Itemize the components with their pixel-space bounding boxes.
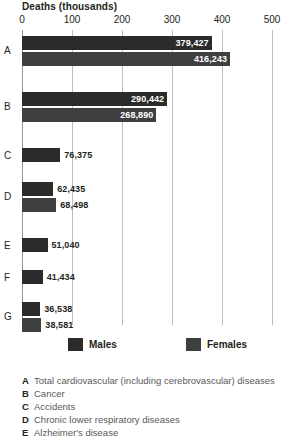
bar-fill [22, 148, 60, 162]
legend-swatch-icon [186, 338, 201, 351]
bar-row: F41,434 [22, 270, 272, 284]
key-letter: E [22, 426, 34, 439]
chart-legend: MalesFemales [0, 333, 298, 357]
key-text: Chronic lower respiratory diseases [34, 413, 180, 426]
chart-container: Deaths (thousands) 0100200300400500 A379… [0, 0, 298, 441]
bar-fill [22, 302, 40, 316]
bar-row: A379,427416,243 [22, 36, 272, 66]
legend-label: Males [89, 339, 117, 350]
legend-item-males[interactable]: Males [68, 338, 117, 351]
key-letter: B [22, 387, 34, 400]
bar-value-label: 41,434 [43, 272, 75, 282]
key-text: Accidents [34, 400, 75, 413]
bar-c-males: 76,375 [22, 148, 120, 162]
plot-area: 0100200300400500 A379,427416,243B290,442… [22, 30, 272, 325]
x-axis-tick-label: 0 [19, 14, 25, 25]
key-row: CAccidents [22, 400, 298, 413]
bar-fill [22, 318, 41, 332]
bar-fill [22, 270, 43, 284]
bar-value-label: 379,427 [175, 38, 211, 48]
key-row: DChronic lower respiratory diseases [22, 413, 298, 426]
legend-label: Females [207, 339, 247, 350]
bar-d-females: 68,498 [22, 198, 116, 212]
row-label-b: B [4, 101, 11, 112]
bar-b-females: 268,890 [22, 108, 156, 122]
x-axis-tick-labels: 0100200300400500 [22, 14, 272, 28]
bar-row: C76,375 [22, 148, 272, 162]
bar-g-males: 36,538 [22, 302, 100, 316]
bar-fill [22, 182, 53, 196]
bar-value-label: 62,435 [53, 184, 85, 194]
x-axis-tick-label: 400 [214, 14, 231, 25]
bar-value-label: 268,890 [120, 110, 156, 120]
key-letter: A [22, 374, 34, 387]
bar-a-males: 379,427 [22, 36, 212, 50]
x-axis-tick-label: 300 [164, 14, 181, 25]
bar-g-females: 38,581 [22, 318, 101, 332]
key-text: Total cardiovascular (including cerebrov… [34, 374, 275, 387]
row-label-a: A [4, 45, 11, 56]
key-text: Alzheimer's disease [34, 426, 118, 439]
chart-axis-title: Deaths (thousands) [22, 1, 117, 12]
bar-value-label: 68,498 [56, 200, 88, 210]
bar-a-females: 416,243 [22, 52, 230, 66]
gridline [272, 30, 273, 325]
row-label-d: D [4, 191, 11, 202]
category-key: ATotal cardiovascular (including cerebro… [22, 374, 298, 439]
bar-value-label: 38,581 [41, 320, 73, 330]
bar-row: B290,442268,890 [22, 92, 272, 122]
bar-value-label: 290,442 [131, 94, 167, 104]
bar-value-label: 416,243 [194, 54, 230, 64]
key-letter: C [22, 400, 34, 413]
bar-b-males: 290,442 [22, 92, 167, 106]
legend-swatch-icon [68, 338, 83, 351]
bar-row: G36,53838,581 [22, 302, 272, 332]
bar-fill [22, 238, 48, 252]
x-axis-tick-label: 500 [264, 14, 281, 25]
bar-e-males: 51,040 [22, 238, 108, 252]
row-label-f: F [4, 272, 10, 283]
bar-row: D62,43568,498 [22, 182, 272, 212]
key-letter: D [22, 413, 34, 426]
key-row: EAlzheimer's disease [22, 426, 298, 439]
key-row: BCancer [22, 387, 298, 400]
bar-row: E51,040 [22, 238, 272, 252]
key-row: ATotal cardiovascular (including cerebro… [22, 374, 298, 387]
bar-d-males: 62,435 [22, 182, 113, 196]
x-axis-tick-label: 100 [64, 14, 81, 25]
legend-item-females[interactable]: Females [186, 338, 247, 351]
bar-value-label: 36,538 [40, 304, 72, 314]
bar-f-males: 41,434 [22, 270, 103, 284]
key-text: Cancer [34, 387, 65, 400]
x-axis-tick-label: 200 [114, 14, 131, 25]
bar-value-label: 76,375 [60, 150, 92, 160]
row-label-e: E [4, 240, 11, 251]
bar-value-label: 51,040 [48, 240, 80, 250]
row-label-c: C [4, 150, 11, 161]
row-label-g: G [4, 311, 12, 322]
bar-fill [22, 198, 56, 212]
